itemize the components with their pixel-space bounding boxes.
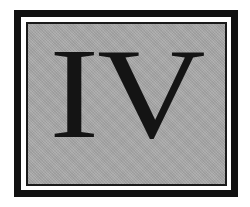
roman-numeral-panel: IV [26, 22, 227, 186]
roman-numeral-text: IV [28, 29, 225, 158]
roman-numeral-badge-frame: IV [14, 10, 238, 197]
